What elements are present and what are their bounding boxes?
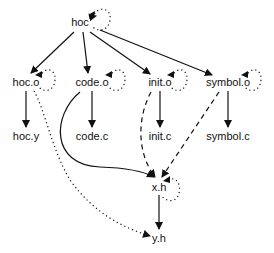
node-symbol-o: symbol.o xyxy=(206,76,250,88)
node-code-c: code.c xyxy=(76,130,108,142)
node-code-o: code.o xyxy=(75,76,108,88)
node-x-h: x.h xyxy=(152,181,167,193)
node-hoc-o: hoc.o xyxy=(13,76,40,88)
dependency-diagram: hoc hoc.o code.o init.o symbol.o hoc.y c… xyxy=(0,0,274,253)
node-y-h: y.h xyxy=(152,232,166,244)
node-symbol-c: symbol.c xyxy=(206,130,249,142)
node-hoc-y: hoc.y xyxy=(13,130,39,142)
edge-hoc-symbol-o xyxy=(100,30,212,75)
node-hoc: hoc xyxy=(71,16,89,28)
node-init-c: init.c xyxy=(149,130,172,142)
node-init-o: init.o xyxy=(148,76,171,88)
edge-hoc-code-o xyxy=(83,32,88,73)
edge-hoc-hoc-o xyxy=(31,32,74,73)
diagram-edges xyxy=(0,0,274,253)
